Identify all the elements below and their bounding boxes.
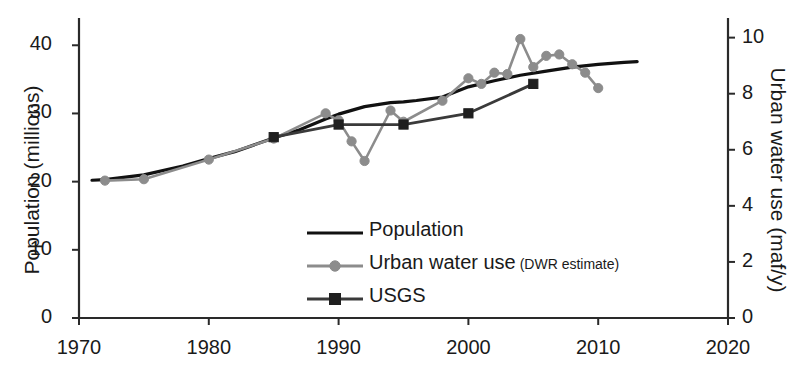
data-point-marker (438, 96, 447, 105)
y-tick-label-right: 4 (742, 193, 786, 216)
legend-label: Population (369, 218, 464, 241)
legend-swatch-urban-water-use (305, 255, 367, 277)
y-tick-label-left: 0 (8, 305, 52, 328)
data-point-marker (464, 74, 473, 83)
data-point-marker (477, 79, 486, 88)
data-point-marker (529, 62, 538, 71)
legend-label-main: Population (369, 218, 464, 240)
data-point-marker (347, 137, 356, 146)
data-point-marker (516, 34, 525, 43)
legend-swatch-usgs (305, 288, 367, 310)
y-tick-label-right: 0 (742, 305, 786, 328)
legend-label-main: USGS (369, 284, 426, 306)
legend-marker (330, 294, 341, 305)
chart-figure: Population (millions) Urban water use (m… (0, 0, 811, 379)
data-point-marker (568, 60, 577, 69)
data-point-marker (334, 120, 343, 129)
x-tick-label: 1970 (44, 336, 114, 359)
x-tick-label: 1990 (304, 336, 374, 359)
x-tick-label: 2000 (433, 336, 503, 359)
series-usgs (269, 79, 538, 141)
data-point-marker (360, 156, 369, 165)
x-tick-label: 2020 (693, 336, 763, 359)
y-tick-label-right: 10 (742, 25, 786, 48)
legend-label: Urban water use (DWR estimate) (369, 251, 619, 274)
data-point-marker (503, 69, 512, 78)
data-point-marker (204, 155, 213, 164)
data-point-marker (139, 175, 148, 184)
data-point-marker (464, 109, 473, 118)
data-point-marker (386, 106, 395, 115)
y-tick-label-right: 2 (742, 249, 786, 272)
data-point-marker (490, 68, 499, 77)
legend-label-note: (DWR estimate) (516, 256, 619, 272)
legend-marker (330, 261, 340, 271)
plot-area (0, 0, 811, 379)
tick-marks (72, 38, 735, 325)
data-point-marker (581, 68, 590, 77)
x-tick-label: 2010 (563, 336, 633, 359)
y-tick-label-left: 40 (8, 32, 52, 55)
data-point-marker (555, 50, 564, 59)
y-tick-label-left: 10 (8, 237, 52, 260)
x-tick-label: 1980 (174, 336, 244, 359)
data-point-marker (594, 83, 603, 92)
legend-label-main: Urban water use (369, 251, 516, 273)
data-point-marker (321, 109, 330, 118)
y-tick-label-left: 20 (8, 169, 52, 192)
legend-label: USGS (369, 284, 426, 307)
data-point-marker (529, 79, 538, 88)
y-tick-label-right: 6 (742, 137, 786, 160)
legend-swatch-population (305, 222, 367, 244)
data-point-marker (542, 51, 551, 60)
y-axis-right-title: Urban water use (maf/y) (766, 30, 790, 330)
data-point-marker (269, 133, 278, 142)
y-tick-label-left: 30 (8, 100, 52, 123)
y-tick-label-right: 8 (742, 81, 786, 104)
data-point-marker (100, 176, 109, 185)
data-point-marker (399, 120, 408, 129)
